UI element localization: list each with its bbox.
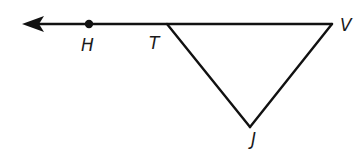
geometry-diagram: H T V J [0,0,362,156]
label-v: V [340,15,353,35]
segment-vj [250,24,332,127]
label-j: J [248,129,256,149]
label-t: T [149,33,161,53]
label-h: H [81,35,94,55]
point-h-dot [85,20,93,28]
segment-tj [167,24,250,127]
